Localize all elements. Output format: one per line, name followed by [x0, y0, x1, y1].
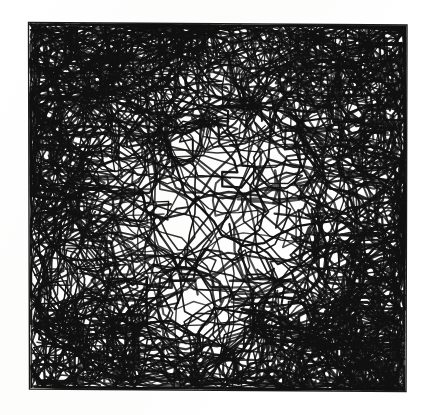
random-walk-plot-canvas: [0, 0, 424, 415]
figure-root: [0, 0, 424, 415]
